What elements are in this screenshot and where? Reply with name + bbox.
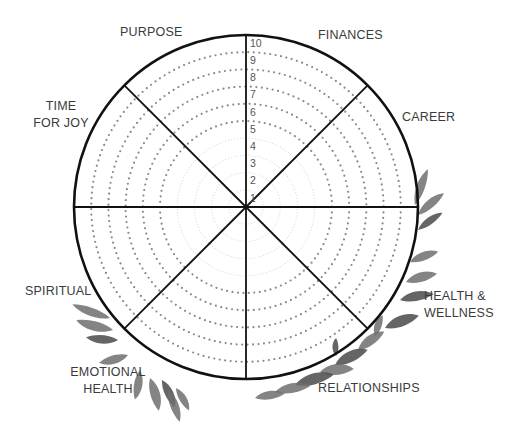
category-label-emotional-health: EMOTIONAL HEALTH [70,364,146,398]
category-label-spiritual: SPIRITUAL [25,283,91,300]
segment-divider [124,85,246,207]
category-label-relationships: RELATIONSHIPS [318,380,420,397]
category-label-finances: FINANCES [318,27,383,44]
category-label-purpose: PURPOSE [120,24,183,41]
scale-number-4: 4 [250,140,256,152]
scale-number-3: 3 [250,157,256,169]
wheel-graphic: 12345678910 [0,0,506,425]
leaf-icon [75,316,114,335]
score-scale: 12345678910 [250,37,262,204]
segment-divider [246,207,368,329]
category-label-career: CAREER [402,109,455,126]
scale-number-9: 9 [250,54,256,66]
leaf-icon [383,310,421,332]
scale-number-5: 5 [250,123,256,135]
scale-number-6: 6 [250,106,256,118]
category-label-health-wellness: HEALTH & WELLNESS [424,288,494,322]
scale-number-10: 10 [250,37,262,49]
scale-number-8: 8 [250,71,256,83]
category-label-time-for-joy: TIME FOR JOY [28,98,94,132]
leaf-icon [405,268,438,286]
leaf-icon [86,334,119,345]
scale-number-2: 2 [250,174,256,186]
segment-dividers [74,35,418,379]
scale-number-7: 7 [250,88,256,100]
scale-number-1: 1 [250,192,256,204]
wheel-of-life-diagram: 12345678910 PURPOSE FINANCES CAREER HEAL… [0,0,506,425]
leaf-icon [146,377,164,412]
